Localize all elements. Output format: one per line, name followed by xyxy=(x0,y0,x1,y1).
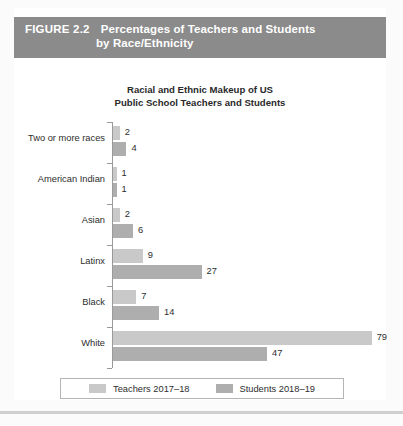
bar-value-label: 79 xyxy=(377,332,387,342)
bar-group: American Indian11 xyxy=(14,163,386,204)
axis-tick xyxy=(107,204,112,205)
bar-value-label: 1 xyxy=(122,184,127,194)
figure-title-line-2: by Race/Ethnicity xyxy=(96,37,376,49)
bar-rect xyxy=(113,331,371,345)
bar-rect xyxy=(113,224,133,238)
bar-rect xyxy=(113,142,126,156)
bar-group: Two or more races24 xyxy=(14,122,386,163)
bar-group: Latinx927 xyxy=(14,245,386,286)
category-label: American Indian xyxy=(0,174,105,184)
axis-tick xyxy=(107,368,112,369)
bar-value-label: 27 xyxy=(207,266,217,276)
bar-rect xyxy=(113,306,159,320)
bar-rect xyxy=(113,167,116,181)
chart-title: Racial and Ethnic Makeup of US Public Sc… xyxy=(14,84,386,109)
bar-rect xyxy=(113,249,142,263)
category-label: Asian xyxy=(0,215,105,225)
figure-header-banner: FIGURE 2.2 Percentages of Teachers and S… xyxy=(14,17,386,58)
legend-swatch xyxy=(89,384,106,393)
chart-legend: Teachers 2017–18Students 2018–19 xyxy=(60,378,344,399)
page-footer-margin xyxy=(0,414,403,426)
bar-value-label: 6 xyxy=(138,225,143,235)
axis-tick xyxy=(107,286,112,287)
axis-tick xyxy=(107,245,112,246)
figure-title-line-1: Percentages of Teachers and Students xyxy=(101,22,316,37)
figure-number-label: FIGURE 2.2 xyxy=(25,22,90,37)
bar-value-label: 47 xyxy=(272,348,282,358)
category-label: Two or more races xyxy=(0,133,105,143)
bar-group: Black714 xyxy=(14,286,386,327)
bar-group: Asian26 xyxy=(14,204,386,245)
bar-rect xyxy=(113,347,267,361)
bar-group: White7947 xyxy=(14,327,386,368)
bar-value-label: 2 xyxy=(125,127,130,137)
legend-swatch xyxy=(216,384,233,393)
axis-tick xyxy=(107,122,112,123)
chart-title-line-1: Racial and Ethnic Makeup of US xyxy=(14,84,386,97)
legend-item: Students 2018–19 xyxy=(216,384,315,394)
bar-rect xyxy=(113,290,136,304)
bar-value-label: 9 xyxy=(148,250,153,260)
legend-label: Students 2018–19 xyxy=(240,384,315,394)
category-label: Latinx xyxy=(0,256,105,266)
bar-rect xyxy=(113,126,120,140)
bar-value-label: 4 xyxy=(131,143,136,153)
chart-title-line-2: Public School Teachers and Students xyxy=(14,97,386,110)
category-label: Black xyxy=(0,297,105,307)
chart-plot-area: Two or more races24American Indian11Asia… xyxy=(14,122,386,370)
bar-rect xyxy=(113,183,116,197)
bar-rect xyxy=(113,208,120,222)
legend-label: Teachers 2017–18 xyxy=(113,384,190,394)
axis-tick xyxy=(107,327,112,328)
bar-value-label: 7 xyxy=(141,291,146,301)
axis-tick xyxy=(107,163,112,164)
page-background: FIGURE 2.2 Percentages of Teachers and S… xyxy=(0,0,403,426)
figure-header-row: FIGURE 2.2 Percentages of Teachers and S… xyxy=(25,22,376,37)
bar-value-label: 14 xyxy=(164,307,174,317)
bar-rect xyxy=(113,265,201,279)
legend-item: Teachers 2017–18 xyxy=(89,384,190,394)
bar-value-label: 2 xyxy=(125,209,130,219)
bar-value-label: 1 xyxy=(122,168,127,178)
category-label: White xyxy=(0,338,105,348)
